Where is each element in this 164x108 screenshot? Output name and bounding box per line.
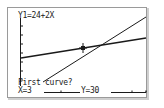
- calculator-screen: Y1=24+2X First curve? X=3 Y=30: [7, 7, 147, 98]
- line-y2: [43, 17, 146, 82]
- x-readout: X=3: [18, 87, 32, 95]
- equation-label: Y1=24+2X: [18, 12, 54, 20]
- y-readout: Y=30: [81, 87, 99, 95]
- trace-cursor-icon: [79, 43, 87, 53]
- y-axis: [21, 18, 24, 86]
